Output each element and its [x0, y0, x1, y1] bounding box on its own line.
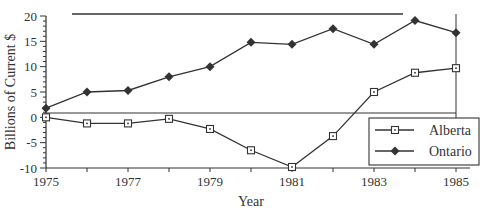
square-marker-dot	[209, 128, 211, 130]
diamond-marker	[165, 72, 174, 81]
square-marker-dot	[414, 72, 416, 74]
x-axis-label: Year	[238, 194, 264, 209]
plot-frame	[46, 14, 456, 118]
diamond-marker	[124, 86, 133, 95]
y-axis-label: Billions of Current $	[3, 34, 18, 150]
square-marker-dot	[168, 118, 170, 120]
y-tick-label: 0	[31, 110, 38, 125]
x-axis: 197519771979198119831985	[33, 168, 470, 189]
y-axis: 20151050-5-10	[20, 9, 46, 176]
diamond-marker	[288, 40, 297, 49]
x-tick-label: 1985	[443, 174, 469, 189]
diamond-marker	[83, 88, 92, 97]
legend-label: Alberta	[429, 123, 472, 138]
legend-label: Ontario	[429, 144, 472, 159]
square-marker-dot	[45, 117, 47, 119]
x-tick-label: 1983	[361, 174, 387, 189]
diamond-marker	[42, 104, 51, 113]
square-marker-dot	[250, 149, 252, 151]
diamond-marker	[452, 28, 461, 37]
line-chart: 20151050-5-10 197519771979198119831985 A…	[0, 0, 484, 214]
y-tick-label: 10	[24, 59, 37, 74]
square-marker-dot	[127, 123, 129, 125]
diamond-marker	[247, 38, 256, 47]
legend: AlbertaOntario	[369, 118, 479, 165]
square-marker-dot	[455, 67, 457, 69]
square-marker-dot	[86, 123, 88, 125]
x-tick-label: 1975	[33, 174, 59, 189]
diamond-marker	[370, 40, 379, 49]
diamond-marker	[411, 16, 420, 25]
y-tick-label: 5	[31, 85, 38, 100]
square-marker-dot	[373, 91, 375, 93]
x-tick-label: 1979	[197, 174, 223, 189]
y-tick-label: 15	[24, 34, 37, 49]
series-line	[46, 21, 456, 109]
diamond-marker	[329, 24, 338, 33]
series-ontario	[42, 16, 461, 113]
square-marker-dot	[291, 166, 293, 168]
y-tick-label: -5	[26, 135, 37, 150]
x-tick-label: 1977	[115, 174, 142, 189]
x-tick-label: 1981	[279, 174, 305, 189]
diamond-marker	[206, 62, 215, 71]
y-tick-label: 20	[24, 9, 37, 24]
square-marker-icon-dot	[394, 129, 396, 131]
square-marker-dot	[332, 135, 334, 137]
